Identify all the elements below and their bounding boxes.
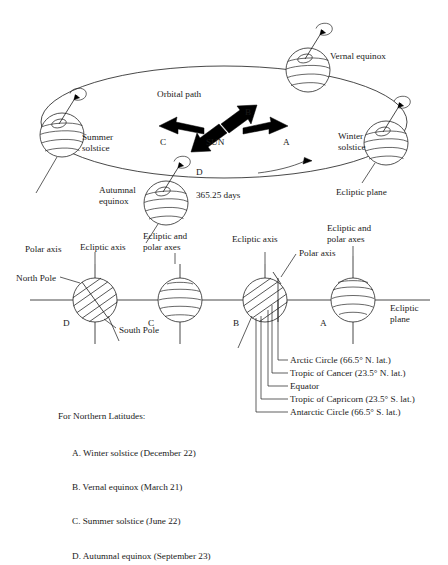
globe-vernal-equinox xyxy=(286,23,332,92)
legend-item-b: B. Vernal equinox (March 21) xyxy=(58,482,211,493)
leader-polar-axis-b xyxy=(281,254,296,277)
arrow-c xyxy=(159,117,204,134)
label-arrow-d: D xyxy=(196,167,203,178)
label-autumnal-equinox: Autumnal equinox xyxy=(99,185,136,206)
legend-item-c: C. Summer solstice (June 22) xyxy=(58,516,211,527)
label-arrow-c: C xyxy=(160,137,166,148)
label-sun: SUN xyxy=(206,137,224,148)
label-ecliptic-and-polar-axes-2: Ecliptic and polar axes xyxy=(327,223,371,244)
legend-item-a: A. Winter solstice (December 22) xyxy=(58,448,211,459)
label-ecliptic-plane-lower: Ecliptic plane xyxy=(390,303,419,324)
callout-equator: Equator xyxy=(290,381,319,392)
callout-tropic-of-capricorn: Tropic of Capricorn (23.5° S. lat.) xyxy=(290,394,415,405)
legend-heading: For Northern Latitudes: xyxy=(58,411,211,422)
label-summer-solstice: Summer solstice xyxy=(82,132,113,153)
label-north-pole: North Pole xyxy=(16,273,56,284)
globe-c xyxy=(158,264,202,344)
label-winter-solstice: Winter solstice xyxy=(338,131,366,152)
globe-b xyxy=(238,264,291,412)
label-ecliptic-axis-b: Ecliptic axis xyxy=(232,234,278,245)
label-orbital-path: Orbital path xyxy=(157,89,201,100)
callout-tropic-of-cancer: Tropic of Cancer (23.5° N. lat.) xyxy=(290,368,406,379)
label-polar-axis-left: Polar axis xyxy=(25,244,62,255)
label-ecliptic-and-polar-axes-1: Ecliptic and polar axes xyxy=(143,231,187,252)
globe-d xyxy=(60,264,121,344)
label-ecliptic-plane-upper: Ecliptic plane xyxy=(336,187,387,198)
label-globe-d: D xyxy=(63,318,70,329)
label-vernal-equinox: Vernal equinox xyxy=(330,51,386,62)
orbit-direction-stroke xyxy=(258,161,305,173)
legend-block: For Northern Latitudes: A. Winter solsti… xyxy=(58,388,211,565)
callout-arctic-circle: Arctic Circle (66.5° N. lat.) xyxy=(290,355,391,366)
label-ecliptic-axis-left: Ecliptic axis xyxy=(80,242,126,253)
globe-winter-solstice xyxy=(362,96,410,183)
orbit-direction-arrowhead xyxy=(303,157,312,164)
label-globe-a: A xyxy=(320,318,327,329)
legend-item-d: D. Autumnal equinox (September 23) xyxy=(58,551,211,562)
label-globe-c: C xyxy=(148,318,154,329)
label-arrow-a: A xyxy=(283,137,290,148)
label-globe-b: B xyxy=(233,318,239,329)
label-polar-axis-b: Polar axis xyxy=(299,248,336,259)
label-period-days: 365.25 days xyxy=(196,190,240,201)
globe-summer-solstice xyxy=(36,88,86,193)
callout-antarctic-circle: Antarctic Circle (66.5° S. lat.) xyxy=(290,407,401,418)
globe-a xyxy=(331,256,375,344)
globe-autumnal-equinox xyxy=(144,156,190,243)
label-arrow-b: B xyxy=(245,107,251,118)
